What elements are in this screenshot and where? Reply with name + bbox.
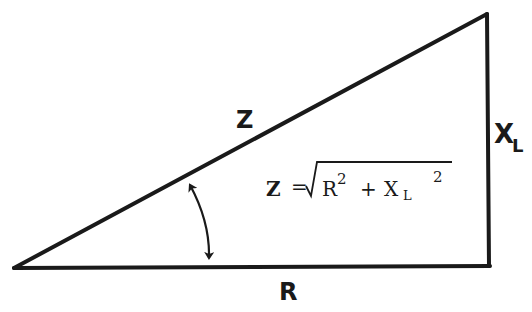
svg-text:X: X <box>384 177 399 201</box>
hypotenuse-label: Z <box>236 106 253 134</box>
hypotenuse-side-z <box>14 14 487 268</box>
svg-text:2: 2 <box>433 168 443 186</box>
vertical-label: X L <box>494 119 523 156</box>
svg-text:=: = <box>291 175 308 199</box>
phase-angle-arc <box>190 185 209 258</box>
svg-text:R: R <box>322 177 338 201</box>
base-side-r <box>14 266 490 268</box>
vertical-side-xl <box>487 14 489 266</box>
svg-text:2: 2 <box>337 170 347 188</box>
svg-text:L: L <box>512 135 523 156</box>
svg-text:L: L <box>403 188 412 203</box>
svg-text:Z: Z <box>266 177 281 201</box>
impedance-formula: Z = R 2 + X L 2 <box>266 162 452 203</box>
base-label: R <box>279 278 297 306</box>
svg-text:+: + <box>360 177 377 201</box>
impedance-triangle-diagram: Z R X L Z = R 2 + X L 2 <box>0 0 532 312</box>
